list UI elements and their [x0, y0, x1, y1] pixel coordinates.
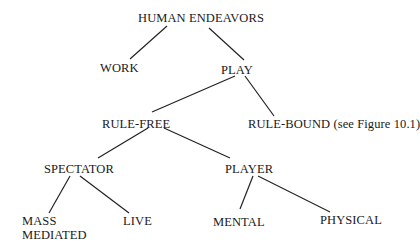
node-work: WORK — [100, 61, 139, 75]
edge-play-rulebound — [245, 76, 274, 116]
edge-player-mental — [240, 176, 253, 209]
node-player: PLAYER — [225, 162, 273, 176]
edge-play-rulefree — [152, 76, 235, 112]
node-play: PLAY — [221, 63, 253, 77]
node-mass-mediated: MASS MEDIATED — [22, 214, 87, 242]
node-live: LIVE — [123, 214, 152, 228]
edge-spectator-live — [80, 176, 129, 213]
node-physical: PHYSICAL — [320, 213, 382, 227]
node-mass-mediated-line1: MASS — [22, 214, 87, 228]
edge-rulefree-player — [164, 128, 230, 158]
node-rule-free: RULE-FREE — [102, 117, 170, 131]
edge-rulefree-spectator — [98, 128, 148, 158]
edge-root-play — [209, 28, 244, 60]
node-rule-bound: RULE-BOUND (see Figure 10.1) — [248, 117, 420, 131]
edge-spectator-massmediated — [49, 176, 70, 213]
node-human-endeavors: HUMAN ENDEAVORS — [138, 11, 264, 25]
edge-root-work — [130, 26, 167, 59]
node-mental: MENTAL — [213, 215, 265, 229]
node-mass-mediated-line2: MEDIATED — [22, 228, 87, 242]
edge-player-physical — [258, 176, 330, 212]
node-spectator: SPECTATOR — [44, 162, 114, 176]
